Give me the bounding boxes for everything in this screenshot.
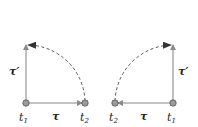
label-tau: τ <box>140 110 148 123</box>
point-t1 <box>170 100 176 106</box>
label-t2: t2 <box>80 111 89 125</box>
label-tau-prime: τ′ <box>178 65 188 78</box>
label-t1: t1 <box>167 111 176 125</box>
label-tau: τ <box>52 110 60 123</box>
point-t2 <box>82 100 88 106</box>
left-panel: t1 t2 τ τ′ <box>9 45 89 125</box>
right-panel: t2 t1 τ τ′ <box>109 45 188 125</box>
point-t2 <box>112 100 118 106</box>
label-tau-prime: τ′ <box>9 65 19 78</box>
rotation-arc <box>115 45 171 101</box>
point-t1 <box>23 100 29 106</box>
label-t2: t2 <box>109 111 118 125</box>
rotation-diagram: t1 t2 τ τ′ t2 t1 τ τ′ <box>0 0 198 127</box>
rotation-arc <box>28 45 85 101</box>
label-t1: t1 <box>19 111 28 125</box>
